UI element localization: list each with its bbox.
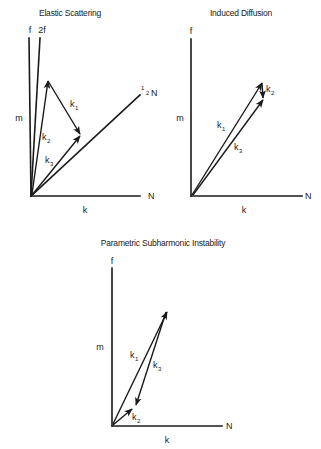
k-label: k [83, 205, 88, 215]
k3-label: k 3 [45, 155, 54, 167]
svg-text:2: 2 [271, 90, 275, 96]
svg-text:2: 2 [47, 138, 51, 144]
panel-induced-diffusion: Induced Diffusion f m N k k 1 k 2 k 3 [176, 8, 311, 215]
k-label: k [242, 205, 247, 215]
vector-k3 [193, 100, 263, 195]
vector-k1 [192, 83, 262, 195]
vector-k2 [262, 83, 263, 98]
m-label: m [176, 113, 184, 123]
panel-title: Elastic Scattering [39, 8, 102, 18]
k-label: k [165, 435, 170, 445]
svg-text:2: 2 [146, 90, 150, 96]
svg-text:2: 2 [137, 418, 141, 424]
k2-label: k 2 [266, 84, 275, 96]
svg-text:1: 1 [141, 85, 145, 91]
k3-label: k 3 [234, 142, 243, 154]
k3-label: k 3 [153, 360, 162, 372]
f-axis [29, 38, 31, 196]
panel-parametric-subharmonic-instability: Parametric Subharmonic Instability f m N… [96, 238, 232, 445]
n-label: N [305, 191, 312, 201]
f-label: f [29, 25, 32, 35]
svg-text:1: 1 [222, 126, 226, 132]
m-label: m [15, 113, 23, 123]
k2-label: k 2 [132, 412, 141, 424]
panel-title: Induced Diffusion [210, 8, 273, 18]
svg-text:1: 1 [75, 105, 79, 111]
svg-text:3: 3 [50, 161, 54, 167]
n-label: N [226, 421, 233, 431]
svg-text:1: 1 [135, 356, 139, 362]
m-label: m [96, 342, 104, 352]
k1-label: k 1 [130, 350, 139, 362]
svg-text:N: N [151, 88, 158, 98]
k2-label: k 2 [42, 132, 51, 144]
f-label: f [190, 26, 193, 36]
panel-title: Parametric Subharmonic Instability [101, 238, 226, 248]
n-label: N [148, 191, 155, 201]
2f-label: 2f [38, 25, 46, 35]
svg-text:3: 3 [158, 366, 162, 372]
vector-k3 [136, 312, 166, 405]
panel-elastic-scattering: Elastic Scattering f 2f m N k 1 2 N k 1 … [15, 8, 157, 215]
k1-label: k 1 [70, 99, 79, 111]
f-label: f [111, 256, 114, 266]
wave-interaction-diagrams: Elastic Scattering f 2f m N k 1 2 N k 1 … [0, 0, 321, 449]
k1-label: k 1 [217, 120, 226, 132]
half-n-line [31, 95, 140, 196]
svg-text:3: 3 [239, 148, 243, 154]
half-n-label: 1 2 N [141, 85, 158, 98]
